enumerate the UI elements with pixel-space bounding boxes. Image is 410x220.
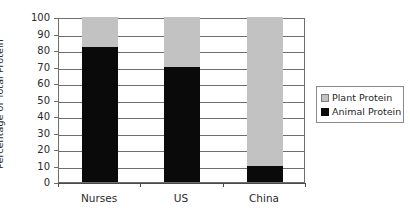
x-axis-line (58, 183, 305, 184)
stacked-bar (164, 19, 200, 182)
y-tick-label: 50 (24, 96, 50, 106)
bar-segment (82, 47, 118, 182)
bar-segment (164, 17, 200, 67)
x-tick-label: Nurses (57, 192, 141, 205)
y-tick-label: 80 (24, 46, 50, 56)
plot-area (58, 18, 305, 183)
bar-group (224, 19, 306, 182)
stacked-bar (82, 19, 118, 182)
x-tick-mark (140, 183, 141, 187)
chart-legend: Plant ProteinAnimal Protein (316, 86, 404, 123)
bar-segment (247, 17, 283, 166)
y-tick-label: 100 (24, 13, 50, 23)
y-tick-label: 40 (24, 112, 50, 122)
y-tick-label: 70 (24, 63, 50, 73)
bar-group (141, 19, 223, 182)
legend-swatch-plant-icon (321, 94, 329, 102)
legend-label: Plant Protein (332, 92, 392, 103)
x-tick-mark (223, 183, 224, 187)
x-tick-mark (58, 183, 59, 187)
bar-group (59, 19, 141, 182)
legend-label: Animal Protein (332, 106, 401, 117)
legend-item: Animal Protein (321, 105, 400, 118)
y-tick-label: 10 (24, 162, 50, 172)
y-axis-title: Percentage of Total Protein (0, 19, 7, 189)
y-tick-label: 60 (24, 79, 50, 89)
legend-item: Plant Protein (321, 91, 400, 104)
bar-segment (164, 67, 200, 183)
stacked-bar-chart: Percentage of Total Protein 100908070605… (0, 0, 410, 220)
x-tick-label: China (222, 192, 306, 205)
bar-segment (82, 17, 118, 47)
x-tick-label: US (139, 192, 223, 205)
legend-swatch-animal-icon (321, 108, 329, 116)
y-tick-label: 30 (24, 129, 50, 139)
y-tick-label: 20 (24, 145, 50, 155)
y-tick-label: 0 (24, 178, 50, 188)
y-tick-label: 90 (24, 30, 50, 40)
stacked-bar (247, 19, 283, 182)
bar-segment (247, 166, 283, 183)
x-tick-mark (305, 183, 306, 187)
